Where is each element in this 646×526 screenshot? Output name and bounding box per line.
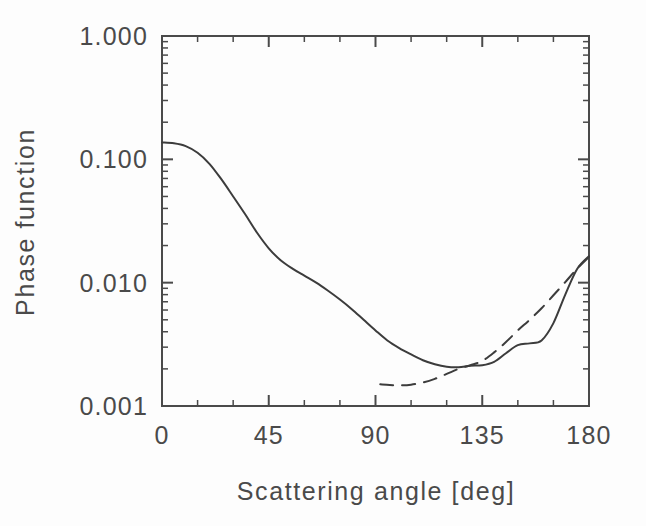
x-tick-label: 180 <box>566 421 611 449</box>
x-tick-label: 90 <box>360 421 390 449</box>
y-tick-label: 0.010 <box>79 269 148 297</box>
y-tick-label: 1.000 <box>79 22 148 50</box>
x-axis-title: Scattering angle [deg] <box>237 477 515 505</box>
y-tick-label: 0.100 <box>79 145 148 173</box>
figure-container: 045901351800.0010.0100.1001.000 Scatteri… <box>0 0 646 526</box>
x-tick-label: 45 <box>254 421 284 449</box>
plot-background <box>0 0 646 526</box>
x-tick-label: 135 <box>460 421 505 449</box>
x-tick-label: 0 <box>154 421 169 449</box>
y-tick-label: 0.001 <box>79 392 148 420</box>
y-axis-title: Phase function <box>11 128 39 316</box>
phase-function-plot: 045901351800.0010.0100.1001.000 Scatteri… <box>0 0 646 526</box>
